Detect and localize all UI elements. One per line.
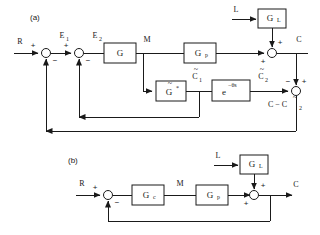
block-gp-subscript: p [205,52,208,58]
sign-sum2-input: + [64,41,69,50]
summing-junction-2 [75,49,84,58]
sign-sum1-feedback: − [53,56,58,65]
sign-sum-model-top: + [302,77,307,86]
signal-label-c2-subscript: 2 [265,77,268,83]
signal-label-r: R [17,37,23,46]
summing-junction-2-b [250,191,259,200]
block-dead-time-label: e [222,87,226,97]
signal-label-c1: C [192,72,197,81]
sign-sum1-input-b: + [93,183,98,192]
signal-label-m-b: M [176,179,183,188]
block-gl-b-label: G [249,159,256,169]
signal-label-l-b: L [216,151,221,160]
block-gp-b-subscript: p [217,194,220,200]
sign-sum1-input: + [31,41,36,50]
signal-label-e1: E [60,31,65,40]
sign-sum-model-left: − [286,77,291,86]
signal-label-m: M [143,35,150,44]
signal-label-r-b: R [79,179,85,188]
signal-label-c: C [296,35,301,44]
block-gp-b-label: G [207,190,214,200]
signal-label-c1-subscript: 1 [199,77,202,83]
panel-a-label: (a) [30,13,40,22]
signal-label-e2-subscript: 2 [99,36,102,42]
block-gl-a-label: G [267,13,274,23]
sign-sum2-top-b: + [261,181,266,190]
block-gl-a-subscript: L [277,17,281,23]
signal-label-l: L [234,5,239,14]
block-dead-time-exponent: −θs [228,82,237,88]
signal-label-c-minus-c2: C − C [268,100,287,109]
block-g-star-superscript: * [176,85,179,91]
sign-sum2-feedback: − [86,56,91,65]
summing-junction-1-b [104,191,113,200]
sign-sum2-left-b: + [244,199,249,208]
block-g-label: G [117,48,124,58]
signal-c-minus-c2-accent: ~ [293,93,298,102]
sign-sum-output-top: + [278,38,283,47]
sign-sum1-feedback-b: − [115,198,120,207]
control-block-diagram: (a) R + − E 1 + − E 2 G M G p L [0,0,320,235]
summing-junction-output [268,49,277,58]
signal-label-c-minus-c2-subscript: 2 [299,105,302,111]
signal-label-c2: C [258,72,263,81]
summing-junction-1 [42,49,51,58]
block-gc-label: G [143,190,150,200]
block-gl-b-subscript: L [259,163,263,169]
signal-label-e2: E [93,31,98,40]
block-g-star-label: G [166,87,173,97]
signal-label-c-b: C [293,180,298,189]
panel-b-label: (b) [68,156,78,165]
block-gp-label: G [195,48,202,58]
block-gc-subscript: c [153,194,156,200]
